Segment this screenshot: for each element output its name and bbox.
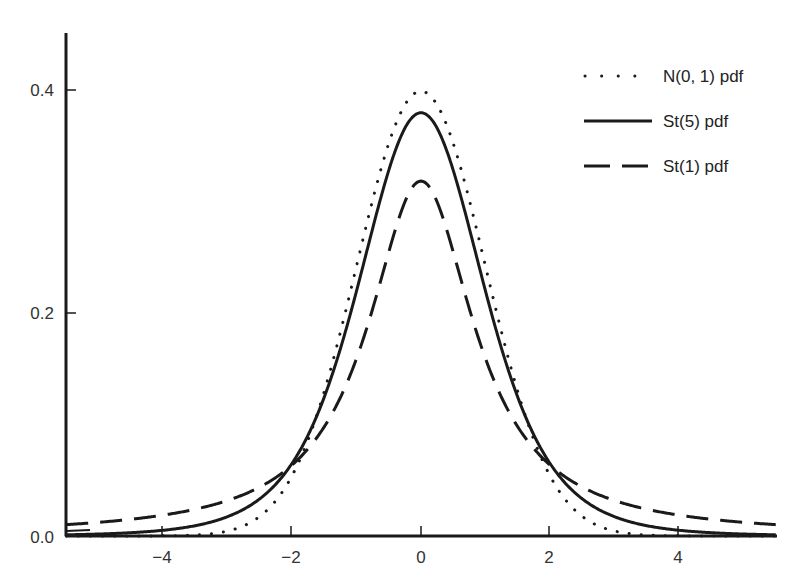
x-tick-label-minus4: −4 [152, 548, 171, 567]
legend-item-st1: St(1) pdf [584, 157, 728, 176]
x-tick-label-minus2: −2 [281, 548, 300, 567]
x-tick-label-2: 2 [544, 548, 553, 567]
chart-canvas: 0.4 0.2 0.0 −4 −2 0 2 4 N(0, 1) pdf St(5… [0, 0, 801, 585]
legend: N(0, 1) pdf St(5) pdf St(1) pdf [584, 67, 744, 176]
student-t1-pdf-curve [66, 181, 776, 525]
y-tick-label-0.4: 0.4 [30, 81, 54, 100]
y-tick-label-0.0: 0.0 [30, 528, 54, 547]
legend-label-st5: St(5) pdf [663, 112, 728, 131]
x-tick-label-0: 0 [416, 548, 425, 567]
x-axis-ticks: −4 −2 0 2 4 [152, 526, 682, 567]
y-tick-0.0 [66, 530, 90, 531]
y-axis-ticks: 0.4 0.2 0.0 [30, 81, 90, 547]
legend-label-st1: St(1) pdf [663, 157, 728, 176]
legend-item-st5: St(5) pdf [584, 112, 728, 131]
legend-label-normal: N(0, 1) pdf [663, 67, 744, 86]
legend-item-normal: N(0, 1) pdf [585, 67, 744, 86]
y-tick-label-0.2: 0.2 [30, 304, 54, 323]
x-tick-label-4: 4 [673, 548, 682, 567]
student-t5-pdf-curve [66, 113, 776, 535]
